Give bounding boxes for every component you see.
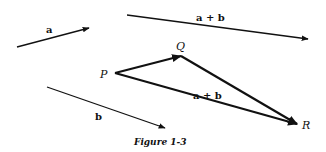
vector-b-label: b xyxy=(95,111,102,122)
vector-addition-figure: a a + b b P Q R a + b Figure 1-3 xyxy=(0,0,326,152)
triangle-pqr: P Q R a + b xyxy=(99,40,310,132)
vector-a-plus-b-label: a + b xyxy=(196,12,225,23)
vector-a: a xyxy=(17,24,89,47)
vector-b-arrow-icon xyxy=(47,87,165,128)
point-q-label: Q xyxy=(176,40,185,53)
point-r-label: R xyxy=(301,119,310,132)
edge-pq-arrow-icon xyxy=(115,56,181,73)
figure-caption: Figure 1-3 xyxy=(133,137,187,147)
edge-pr-label: a + b xyxy=(193,90,222,101)
vector-a-plus-b-top: a + b xyxy=(127,12,308,39)
vector-a-label: a xyxy=(46,24,53,35)
point-p-label: P xyxy=(99,68,108,81)
vector-b: b xyxy=(47,87,165,128)
vector-a-arrow-icon xyxy=(17,28,89,47)
